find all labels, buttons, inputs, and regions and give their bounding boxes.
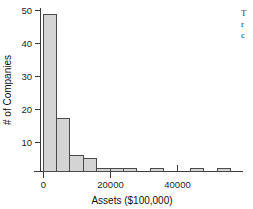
margin-note-line-3: c bbox=[241, 30, 253, 41]
bar-bin-4 bbox=[97, 168, 110, 171]
y-axis-ticks bbox=[35, 11, 40, 143]
bar-bin-3 bbox=[83, 158, 96, 171]
bar-bin-0 bbox=[43, 15, 56, 172]
y-tick-label-30: 30 bbox=[21, 71, 32, 82]
margin-note-line-1: T bbox=[241, 8, 253, 19]
margin-note: T r c bbox=[241, 8, 253, 41]
bar-bin-8 bbox=[150, 168, 163, 171]
y-tick-label-40: 40 bbox=[21, 38, 32, 49]
histogram-svg: 50 40 30 20 10 # of Companies bbox=[0, 0, 253, 209]
bar-bin-11 bbox=[190, 168, 203, 171]
margin-note-line-2: r bbox=[241, 19, 253, 30]
bar-bin-5 bbox=[110, 168, 123, 171]
bar-bin-6 bbox=[123, 168, 136, 171]
bars-group bbox=[43, 15, 231, 172]
x-axis-title: Assets ($100,000) bbox=[91, 195, 172, 206]
plot-area: 50 40 30 20 10 # of Companies bbox=[0, 0, 253, 209]
y-tick-label-10: 10 bbox=[21, 137, 32, 148]
y-tick-label-50: 50 bbox=[21, 5, 32, 16]
histogram-figure: 50 40 30 20 10 # of Companies bbox=[0, 0, 253, 209]
bar-bin-2 bbox=[70, 155, 83, 172]
x-tick-label-20000: 20000 bbox=[97, 179, 123, 190]
y-tick-label-20: 20 bbox=[21, 104, 32, 115]
x-tick-label-0: 0 bbox=[41, 179, 46, 190]
x-tick-label-40000: 40000 bbox=[164, 179, 190, 190]
y-axis-title: # of Companies bbox=[2, 55, 13, 125]
bar-bin-1 bbox=[56, 119, 69, 172]
bar-bin-13 bbox=[217, 168, 230, 171]
